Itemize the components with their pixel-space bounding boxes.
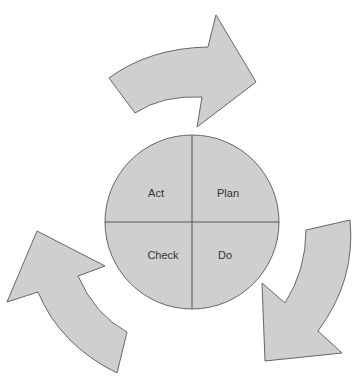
quadrant-act: Act (148, 187, 164, 199)
pdca-diagram: Act Plan Check Do (0, 0, 357, 378)
quadrant-do: Do (218, 249, 232, 261)
arrow-top-icon (109, 15, 256, 127)
quadrant-check: Check (147, 249, 179, 261)
quadrant-plan: Plan (217, 187, 239, 199)
arrow-left-icon (7, 231, 127, 373)
